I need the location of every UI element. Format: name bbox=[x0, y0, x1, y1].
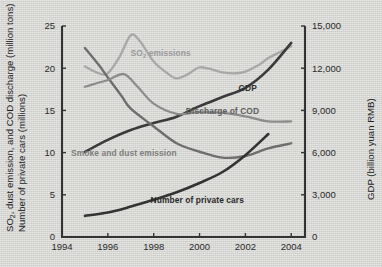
y-right-tick-label: 15,000 bbox=[312, 20, 341, 31]
x-tick-label: 1994 bbox=[51, 241, 72, 252]
series-label-gdp: GDP bbox=[238, 83, 257, 93]
left-axis-title-line1: SO2, dust emission, and COD discharge (m… bbox=[4, 4, 16, 232]
y-left-tick-label: 20 bbox=[44, 63, 55, 74]
y-axis-left-title: SO2, dust emission, and COD discharge (m… bbox=[4, 4, 27, 232]
y-axis-right-ticks: 03,0006,0009,00012,00015,000 bbox=[301, 20, 341, 242]
y-right-tick-label: 6,000 bbox=[312, 147, 336, 158]
y-left-tick-label: 25 bbox=[44, 20, 55, 31]
chart-figure: 199419961998200020022004 0510152025 03,0… bbox=[0, 0, 382, 267]
y-right-tick-label: 9,000 bbox=[312, 105, 336, 116]
y-left-tick-label: 5 bbox=[50, 189, 55, 200]
x-axis-ticks: 199419961998200020022004 bbox=[51, 233, 301, 252]
x-tick-label: 1998 bbox=[143, 241, 164, 252]
y-right-tick-label: 0 bbox=[312, 231, 317, 242]
x-tick-label: 2000 bbox=[189, 241, 210, 252]
series-lines bbox=[85, 34, 291, 215]
y-left-tick-label: 10 bbox=[44, 147, 55, 158]
left-axis-title-line2: Number of private cars (millions) bbox=[16, 94, 27, 232]
y-left-tick-label: 0 bbox=[50, 231, 55, 242]
series-line-gdp bbox=[85, 43, 291, 152]
series-label-smoke-and-dust-emission: Smoke and dust emission bbox=[71, 148, 177, 158]
y-left-tick-label: 15 bbox=[44, 105, 55, 116]
series-label-so2-emissions: SO2 emissions bbox=[130, 48, 190, 59]
x-tick-label: 2002 bbox=[235, 241, 256, 252]
series-label-number-of-private-cars: Number of private cars bbox=[151, 195, 245, 205]
x-tick-label: 1996 bbox=[97, 241, 118, 252]
x-tick-label: 2004 bbox=[281, 241, 302, 252]
series-label-discharge-of-cod: Discharge of COD bbox=[186, 106, 259, 116]
right-axis-title: GDP (billion yuan RMB) bbox=[365, 98, 376, 200]
line-chart: 199419961998200020022004 0510152025 03,0… bbox=[0, 0, 382, 267]
y-right-tick-label: 3,000 bbox=[312, 189, 336, 200]
y-right-tick-label: 12,000 bbox=[312, 63, 341, 74]
